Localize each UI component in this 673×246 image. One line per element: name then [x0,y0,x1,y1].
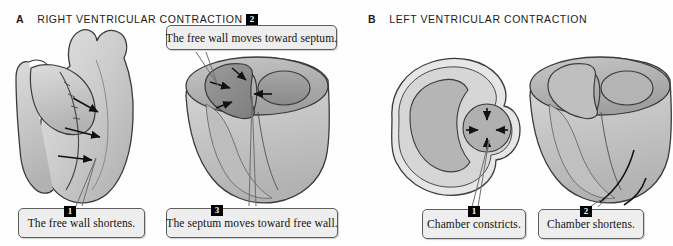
callout-text-a3: The septum moves toward free wall. [166,217,337,229]
panel-title-b: B LEFT VENTRICULAR CONTRACTION [368,9,587,27]
panel-letter-a: A [16,13,24,25]
ventricle-cutaway-view-b [530,57,671,207]
transverse-cross-section [392,58,520,207]
callout-text-a2: The free wall moves toward septum. [166,32,337,44]
callout-text-b1: Chamber constricts. [427,218,521,230]
callout-badge-a1: 1 [64,206,76,217]
callout-box-a2: The free wall moves toward septum. [166,25,337,50]
anterior-heart-view [16,30,133,206]
ventricle-cutaway-view-a [186,52,329,206]
callout-badge-b2: 2 [580,206,592,217]
callout-badge-a2: 2 [246,14,258,25]
callout-badge-b1: 1 [468,206,480,217]
panel-title-text-a: RIGHT VENTRICULAR CONTRACTION [37,13,242,25]
callout-box-a1: The free wall shortens. [18,208,145,238]
callout-box-a3: The septum moves toward free wall. [166,208,338,238]
callout-badge-a3: 3 [211,205,223,216]
panel-letter-b: B [368,13,376,25]
panel-title-text-b: LEFT VENTRICULAR CONTRACTION [389,13,587,25]
callout-text-b2: Chamber shortens. [547,218,635,230]
callout-text-a1: The free wall shortens. [28,217,136,229]
